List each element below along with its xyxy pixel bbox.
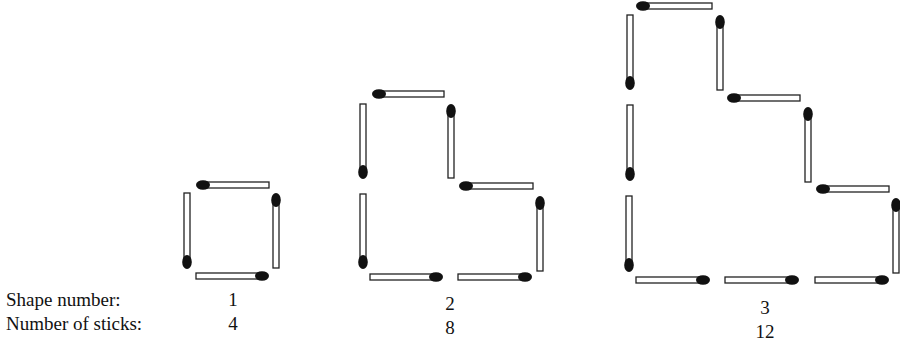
shape-3-sticks: 12 <box>756 321 775 343</box>
shape-2-sticks: 8 <box>445 317 455 339</box>
match-stick-body <box>184 193 190 262</box>
matchstick <box>624 196 634 272</box>
match-stick-body <box>643 3 712 9</box>
match-stick-body <box>626 196 632 265</box>
matchstick <box>358 194 368 269</box>
matchstick <box>803 107 813 182</box>
match-head <box>875 275 889 285</box>
match-head <box>358 255 368 269</box>
match-stick-body <box>636 277 703 283</box>
match-stick-body <box>805 114 811 182</box>
match-head <box>372 89 386 99</box>
matchstick <box>725 275 799 285</box>
matchstick <box>815 275 889 285</box>
match-head <box>358 165 368 179</box>
match-stick-body <box>893 205 899 273</box>
match-head <box>636 1 650 11</box>
match-head <box>271 193 281 207</box>
match-stick-body <box>360 104 366 172</box>
matchstick <box>816 184 889 194</box>
matchstick <box>358 104 368 179</box>
match-stick-body <box>717 22 723 90</box>
matchstick <box>636 275 710 285</box>
matchstick <box>535 196 545 271</box>
match-stick-body <box>734 95 800 101</box>
match-stick-body <box>823 186 889 192</box>
shape-1-sticks: 4 <box>228 313 238 335</box>
shape-2 <box>358 89 545 282</box>
matchstick <box>458 272 532 282</box>
match-head <box>696 275 710 285</box>
matchstick-pattern-diagram: Shape number: Number of sticks: 1 4 2 8 … <box>0 0 900 349</box>
match-stick-body <box>196 273 262 279</box>
match-head <box>625 167 635 181</box>
match-head <box>727 93 741 103</box>
match-stick-body <box>360 194 366 262</box>
shape-1 <box>182 180 281 281</box>
match-stick-body <box>466 183 533 189</box>
match-head <box>255 271 269 281</box>
matchstick <box>636 1 712 11</box>
match-head <box>625 76 635 90</box>
matchstick <box>182 193 192 269</box>
matchstick <box>625 105 635 181</box>
matchstick <box>370 272 443 282</box>
matchstick <box>196 180 269 190</box>
shape-1-number: 1 <box>228 289 238 311</box>
match-stick-body <box>273 200 279 268</box>
match-head <box>535 196 545 210</box>
match-head <box>715 15 725 29</box>
matchstick <box>271 193 281 268</box>
match-stick-body <box>203 182 269 188</box>
match-stick-body <box>815 277 882 283</box>
matchstick <box>196 271 269 281</box>
match-head <box>196 180 210 190</box>
match-head <box>182 255 192 269</box>
match-stick-body <box>627 105 633 174</box>
matchstick <box>446 104 456 178</box>
shape-3-number: 3 <box>760 297 770 319</box>
number-of-sticks-label: Number of sticks: <box>6 313 142 335</box>
match-stick-body <box>627 15 633 83</box>
match-stick-body <box>379 91 444 97</box>
matchstick <box>625 15 635 90</box>
match-head <box>446 104 456 118</box>
matchstick <box>715 15 725 90</box>
match-head <box>429 272 443 282</box>
matchstick <box>727 93 800 103</box>
match-stick-body <box>537 203 543 271</box>
match-stick-body <box>458 274 525 280</box>
matchstick <box>372 89 444 99</box>
match-stick-body <box>448 111 454 178</box>
match-stick-body <box>725 277 792 283</box>
match-stick-body <box>370 274 436 280</box>
match-head <box>518 272 532 282</box>
match-head <box>803 107 813 121</box>
match-head <box>816 184 830 194</box>
matchstick <box>891 198 900 273</box>
match-head <box>624 258 634 272</box>
shape-2-number: 2 <box>445 293 455 315</box>
match-head <box>785 275 799 285</box>
match-head <box>459 181 473 191</box>
shape-3 <box>624 1 900 285</box>
matchstick <box>459 181 533 191</box>
shape-number-label: Shape number: <box>6 289 121 311</box>
